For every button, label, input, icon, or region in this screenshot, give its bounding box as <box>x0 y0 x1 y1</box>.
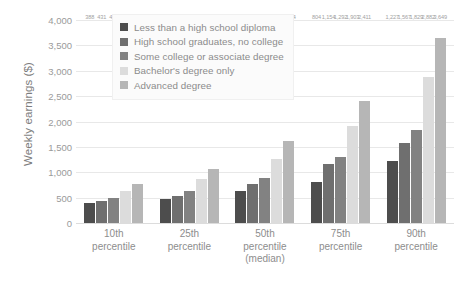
x-axis-tick-label-line: percentile <box>227 241 303 254</box>
bar[interactable]: 3,649 <box>435 38 446 223</box>
x-axis-tick-label-line: 10th <box>76 228 152 241</box>
x-axis-tick-label: 25thpercentile <box>152 228 228 266</box>
x-axis-tick-label-line: 25th <box>152 228 228 241</box>
bar-container: 1,829 <box>411 20 422 223</box>
bar[interactable]: 1,227 <box>387 161 398 223</box>
bar[interactable]: 629 <box>120 191 131 223</box>
bar[interactable]: 1,068 <box>208 169 219 223</box>
bar[interactable]: 1,614 <box>283 141 294 223</box>
x-axis-tick-label-line: percentile <box>378 241 454 254</box>
bar-container: 431 <box>96 20 107 223</box>
x-axis-tick-label: 10thpercentile <box>76 228 152 266</box>
legend-swatch-icon <box>120 23 128 31</box>
bar-container: 1,227 <box>387 20 398 223</box>
y-axis-tick-label: 2,500 <box>28 91 72 102</box>
bar-group: 1,2271,5671,8292,8823,649 <box>378 20 454 223</box>
x-axis-tick-label: 75thpercentile <box>303 228 379 266</box>
bar[interactable]: 804 <box>311 182 322 223</box>
bar[interactable]: 1,903 <box>347 126 358 223</box>
y-axis-tick-label: 3,500 <box>28 40 72 51</box>
bar-container: 1,154 <box>323 20 334 223</box>
bar-container: 1,292 <box>335 20 346 223</box>
bar[interactable]: 2,411 <box>359 101 370 223</box>
bar[interactable]: 766 <box>247 184 258 223</box>
bar-container: 1,903 <box>347 20 358 223</box>
legend-item[interactable]: High school graduates, no college <box>120 35 284 50</box>
bar-chart: Weekly earnings ($) 4,0003,5003,0002,500… <box>0 0 461 283</box>
y-axis-tick-labels: 4,0003,5003,0002,5002,0001,5001,0005000 <box>28 0 72 283</box>
bar[interactable]: 1,260 <box>271 159 282 223</box>
x-axis-tick-label: 90thpercentile <box>378 228 454 266</box>
bar-container: 2,411 <box>359 20 370 223</box>
legend: Less than a high school diplomaHigh scho… <box>112 14 294 100</box>
bar[interactable]: 476 <box>160 199 171 223</box>
legend-item[interactable]: Some college or associate degree <box>120 49 284 64</box>
y-axis-tick-label: 1,000 <box>28 167 72 178</box>
bar[interactable]: 527 <box>172 196 183 223</box>
legend-item-label: Some college or associate degree <box>134 51 284 62</box>
bar-value-label: 804 <box>312 14 321 20</box>
bar-value-label: 431 <box>97 14 106 20</box>
bar-value-label: 388 <box>85 14 94 20</box>
x-axis-tick-label-line: percentile <box>76 241 152 254</box>
legend-item[interactable]: Bachelor's degree only <box>120 64 284 79</box>
legend-swatch-icon <box>120 52 128 60</box>
bar[interactable]: 2,882 <box>423 77 434 223</box>
bar-container: 3,649 <box>435 20 446 223</box>
bar-value-label: 3,649 <box>433 14 447 20</box>
x-axis-tick-label-line: 90th <box>378 228 454 241</box>
bar[interactable]: 388 <box>84 203 95 223</box>
bar[interactable]: 877 <box>196 179 207 224</box>
legend-item-label: Less than a high school diploma <box>134 22 276 33</box>
bar[interactable]: 1,567 <box>399 143 410 223</box>
axis-baseline <box>76 223 454 224</box>
bar[interactable]: 1,292 <box>335 157 346 223</box>
legend-item[interactable]: Less than a high school diploma <box>120 20 284 35</box>
bar[interactable]: 626 <box>235 191 246 223</box>
bar[interactable]: 761 <box>132 184 143 223</box>
bar-group: 8041,1541,2921,9032,411 <box>303 20 379 223</box>
y-axis-tick-label: 500 <box>28 192 72 203</box>
x-axis-tick-label-line: percentile <box>303 241 379 254</box>
bar-container: 1,567 <box>399 20 410 223</box>
legend-swatch-icon <box>120 81 128 89</box>
bar-container: 2,882 <box>423 20 434 223</box>
legend-swatch-icon <box>120 38 128 46</box>
x-axis-tick-labels: 10thpercentile25thpercentile50thpercenti… <box>76 228 454 266</box>
y-axis-tick-label: 0 <box>28 218 72 229</box>
y-axis-tick-label: 1,500 <box>28 141 72 152</box>
bar[interactable]: 1,829 <box>411 130 422 223</box>
legend-item-label: Bachelor's degree only <box>134 65 234 76</box>
y-axis-tick-label: 4,000 <box>28 15 72 26</box>
x-axis-tick-label-line: percentile <box>152 241 228 254</box>
bar[interactable]: 484 <box>108 198 119 223</box>
x-axis-tick-label: 50thpercentile(median) <box>227 228 303 266</box>
y-axis-tick-label: 3,000 <box>28 65 72 76</box>
legend-item-label: High school graduates, no college <box>134 36 283 47</box>
bar[interactable]: 431 <box>96 201 107 223</box>
bar-container: 804 <box>311 20 322 223</box>
legend-item-label: Advanced degree <box>134 80 212 91</box>
x-axis-tick-label-line: (median) <box>227 253 303 266</box>
bar[interactable]: 622 <box>184 191 195 223</box>
x-axis-tick-label-line: 75th <box>303 228 379 241</box>
legend-item[interactable]: Advanced degree <box>120 78 284 93</box>
legend-swatch-icon <box>120 67 128 75</box>
x-axis-tick-label-line: 50th <box>227 228 303 241</box>
bar-value-label: 2,411 <box>358 14 371 20</box>
bar[interactable]: 880 <box>259 178 270 223</box>
bar[interactable]: 1,154 <box>323 164 334 223</box>
bar-container: 388 <box>84 20 95 223</box>
y-axis-tick-label: 2,000 <box>28 116 72 127</box>
